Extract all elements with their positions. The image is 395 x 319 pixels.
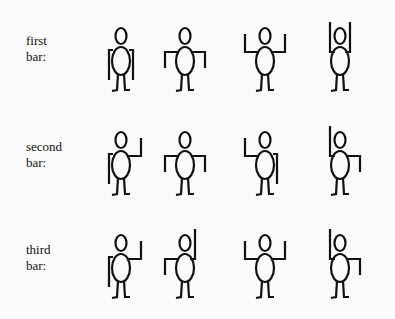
row-label-first-bar: first bar: xyxy=(26,33,47,65)
row-label-third-bar: third bar: xyxy=(26,242,51,274)
stick-figure-icon xyxy=(240,18,290,98)
label-line: bar: xyxy=(26,258,51,274)
stick-figure-icon xyxy=(160,225,210,305)
stick-figure-icon xyxy=(315,225,365,305)
label-line: second xyxy=(26,139,62,155)
label-line: bar: xyxy=(26,155,62,171)
label-line: bar: xyxy=(26,49,47,65)
stick-figure-icon xyxy=(160,122,210,202)
stick-figure-icon xyxy=(240,225,290,305)
stick-figure-icon xyxy=(315,122,365,202)
row-label-second-bar: second bar: xyxy=(26,139,62,171)
stick-figure-icon xyxy=(315,18,365,98)
stick-figure-icon xyxy=(160,18,210,98)
label-line: third xyxy=(26,242,51,258)
stick-figure-icon xyxy=(96,18,146,98)
stick-figure-icon xyxy=(96,122,146,202)
stick-figure-icon xyxy=(240,122,290,202)
stick-figure-icon xyxy=(96,225,146,305)
label-line: first xyxy=(26,33,47,49)
